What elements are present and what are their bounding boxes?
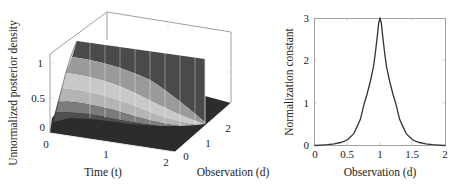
z-tick-0.5: 0.5 — [31, 92, 45, 104]
normalization-plot: 3 2 1 0 0 0.5 1 1.5 2 Observation (d) No… — [283, 12, 448, 179]
x-tick-2: 2 — [442, 148, 448, 160]
tick-marks — [314, 18, 445, 145]
y-tick-3: 3 — [304, 12, 310, 24]
y-tick-1: 1 — [304, 97, 310, 109]
y-tick-2: 2 — [304, 54, 310, 66]
normalization-axis-label: Normalization constant — [283, 27, 295, 135]
observation-axis-label: Observation (d) — [344, 166, 417, 179]
z-tick-0: 0 — [40, 121, 46, 133]
t-tick-1: 1 — [103, 148, 109, 160]
surface-plot: 1 0.5 0 0 1 2 0 1 2 Time (t) Observation… — [7, 12, 269, 179]
x-tick-1.5: 1.5 — [405, 148, 419, 160]
x-tick-0: 0 — [312, 148, 318, 160]
plot-frame — [315, 19, 446, 146]
x-tick-0.5: 0.5 — [340, 148, 354, 160]
d-tick-0: 0 — [183, 150, 189, 162]
y-tick-0: 0 — [304, 139, 310, 151]
z-tick-1: 1 — [38, 57, 44, 69]
time-axis-label: Time (t) — [84, 166, 122, 179]
t-tick-0: 0 — [43, 138, 49, 150]
observation-axis-label-3d: Observation (d) — [197, 166, 270, 179]
figure: 1 0.5 0 0 1 2 0 1 2 Time (t) Observation… — [0, 0, 457, 190]
d-tick-1: 1 — [205, 137, 211, 149]
z-axis-label: Unnormalized posterior density — [7, 20, 20, 166]
normalization-curve — [315, 19, 446, 146]
x-tick-1: 1 — [377, 148, 383, 160]
t-tick-2: 2 — [163, 156, 169, 168]
d-tick-2: 2 — [225, 122, 231, 134]
